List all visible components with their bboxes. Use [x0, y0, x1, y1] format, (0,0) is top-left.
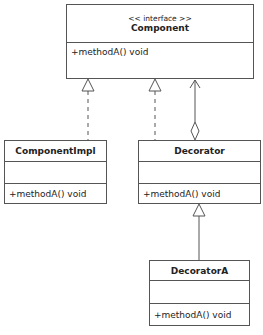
hollow-triangle-icon	[193, 204, 205, 216]
aggregation-decorator-component	[190, 80, 200, 140]
realization-componentimpl	[82, 79, 94, 140]
realization-decorator	[149, 79, 161, 140]
hollow-triangle-icon	[149, 79, 161, 91]
hollow-triangle-icon	[82, 79, 94, 91]
hollow-diamond-icon	[191, 122, 199, 140]
generalization-decoratora	[193, 204, 205, 260]
relationship-edges	[0, 0, 263, 335]
